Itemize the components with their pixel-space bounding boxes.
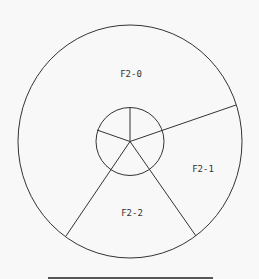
diagram-svg (0, 0, 259, 279)
diagram-canvas: F2-0 F2-1 F2-2 (0, 0, 259, 279)
sector-divider-line (130, 105, 236, 142)
region-label-f2-2: F2-2 (121, 208, 143, 218)
region-label-f2-0: F2-0 (120, 69, 142, 79)
sector-divider-line (66, 142, 130, 237)
sector-divider-line (130, 142, 196, 237)
region-label-f2-1: F2-1 (192, 164, 214, 174)
inner-divider-line (97, 130, 130, 142)
